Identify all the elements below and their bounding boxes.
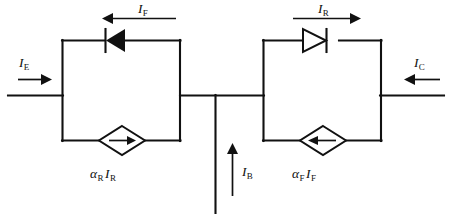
- emitter-terminal: [8, 74, 63, 96]
- reverse-diode-current-label: IR: [318, 2, 329, 16]
- reverse-diode-triangle: [106, 29, 125, 52]
- central-node-wiring: [180, 95, 264, 214]
- base-terminal: [227, 143, 238, 196]
- circuit-diagram: IE IC IB IF IR αRIR αFIF: [0, 0, 452, 214]
- reverse-diode: [106, 29, 126, 52]
- collector-terminal: [380, 74, 444, 96]
- circuit-schematic-canvas: [0, 0, 452, 214]
- I_R-arrow-head: [350, 13, 361, 24]
- left-current-source: [99, 126, 145, 155]
- forward-diode-current-label: IF: [138, 2, 148, 16]
- I_C-arrow-head: [404, 74, 415, 85]
- forward-diode: [303, 29, 327, 52]
- forward-diode-triangle: [303, 29, 326, 52]
- I_E-arrow-head: [41, 74, 52, 85]
- right-source-label: αFIF: [292, 167, 316, 181]
- I_B-arrow-head: [227, 143, 238, 154]
- collector-current-label: IC: [414, 56, 425, 70]
- left-source-label: αRIR: [90, 167, 116, 181]
- emitter-current-label: IE: [19, 56, 29, 70]
- base-current-label: IB: [242, 165, 253, 179]
- right-current-source: [300, 126, 346, 155]
- I_F-arrow-head: [102, 13, 113, 24]
